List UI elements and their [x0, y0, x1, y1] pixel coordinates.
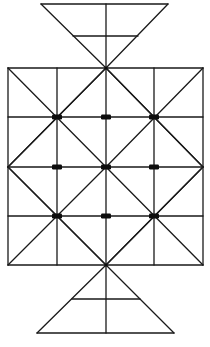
apex-point: [104, 263, 107, 266]
board-marker: [52, 165, 62, 170]
apex-point: [104, 66, 107, 69]
game-board-diagram: [0, 0, 210, 347]
board-marker: [101, 165, 111, 170]
board-marker: [52, 214, 62, 219]
board-marker: [52, 115, 62, 120]
board-marker: [149, 115, 159, 120]
board-marker: [101, 214, 111, 219]
board-marker: [149, 214, 159, 219]
board-marker: [101, 115, 111, 120]
board-marker: [149, 165, 159, 170]
